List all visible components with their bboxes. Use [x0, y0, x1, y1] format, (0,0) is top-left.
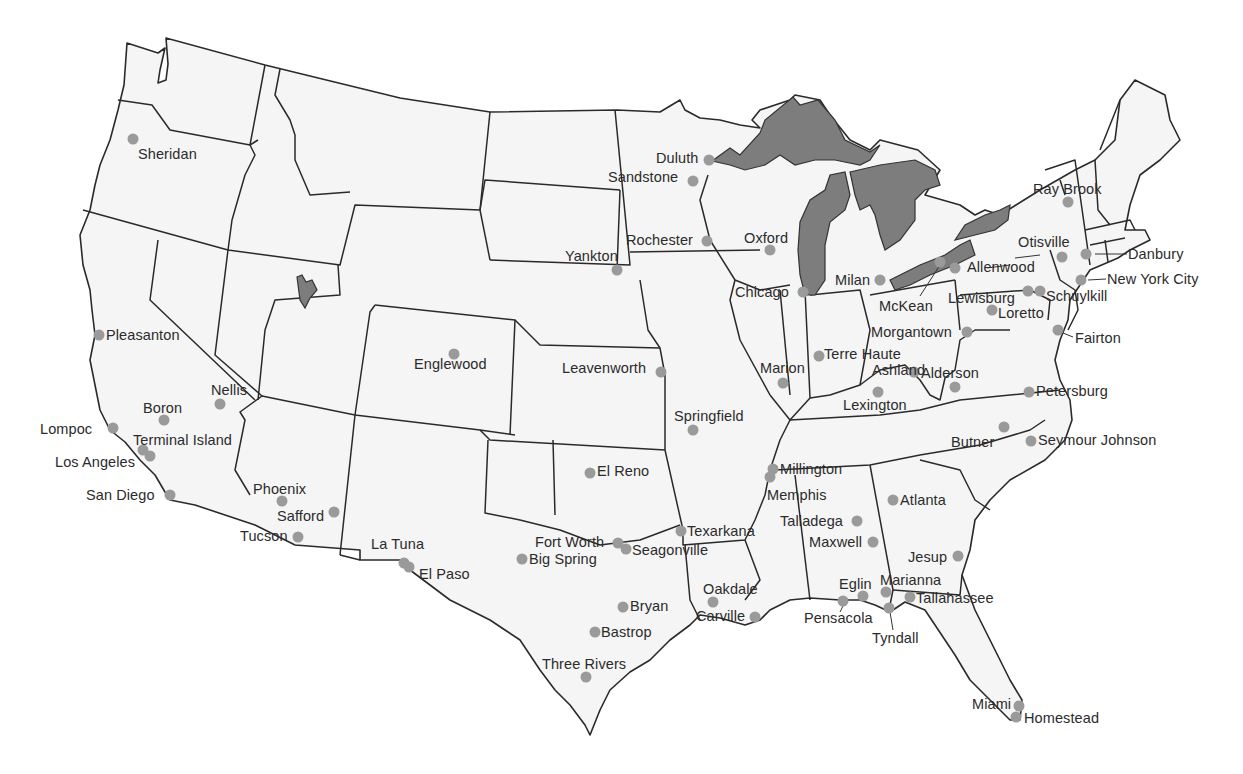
- location-label-tallahassee: Tallahassee: [916, 591, 994, 606]
- location-label-millington: Millington: [780, 462, 842, 477]
- location-label-nellis: Nellis: [211, 383, 247, 398]
- location-dot-marion: [778, 378, 789, 389]
- location-label-oxford: Oxford: [744, 231, 788, 246]
- location-label-allenwood: Allenwood: [967, 260, 1035, 275]
- location-dot-seymour-johnson: [1026, 436, 1037, 447]
- location-dot-atlanta: [888, 495, 899, 506]
- location-label-lompoc: Lompoc: [40, 422, 92, 437]
- location-dot-tallahassee: [905, 592, 916, 603]
- location-dot-boron: [159, 415, 170, 426]
- location-label-danbury: Danbury: [1128, 247, 1184, 262]
- location-label-pensacola: Pensacola: [804, 611, 873, 626]
- location-label-el-reno: El Reno: [597, 464, 649, 479]
- location-label-tucson: Tucson: [240, 529, 288, 544]
- location-label-milan: Milan: [835, 273, 870, 288]
- location-label-tyndall: Tyndall: [872, 631, 919, 646]
- location-label-morgantown: Morgantown: [871, 325, 952, 340]
- location-dot-chicago: [798, 287, 809, 298]
- location-dot-yankton: [612, 265, 623, 276]
- location-label-maxwell: Maxwell: [809, 535, 862, 550]
- location-dot-butner: [999, 422, 1010, 433]
- location-dot-leavenworth: [656, 367, 667, 378]
- location-label-phoenix: Phoenix: [253, 482, 306, 497]
- location-dot-allenwood: [950, 263, 961, 274]
- location-dot-marianna: [881, 587, 892, 598]
- location-dot-schuylkill: [1035, 286, 1046, 297]
- location-dot-oxford: [765, 245, 776, 256]
- location-label-new-york-city: New York City: [1107, 272, 1199, 287]
- location-label-big-spring: Big Spring: [529, 552, 597, 567]
- location-label-los-angeles: Los Angeles: [55, 455, 135, 470]
- location-dot-lewisburg: [1023, 286, 1034, 297]
- location-dot-springfield: [688, 425, 699, 436]
- location-dot-loretto: [987, 305, 998, 316]
- location-dot-lexington: [873, 387, 884, 398]
- location-label-three-rivers: Three Rivers: [542, 657, 626, 672]
- location-label-lewisburg: Lewisburg: [948, 291, 1015, 306]
- location-dot-duluth: [704, 155, 715, 166]
- location-label-yankton: Yankton: [565, 249, 618, 264]
- location-label-petersburg: Petersburg: [1036, 384, 1108, 399]
- location-dot-morgantown: [962, 327, 973, 338]
- location-dot-pleasanton: [94, 330, 105, 341]
- location-label-fort-worth: Fort Worth: [535, 535, 604, 550]
- location-dot-safford: [329, 507, 340, 518]
- location-label-boron: Boron: [143, 401, 182, 416]
- location-label-otisville: Otisville: [1018, 235, 1070, 250]
- location-dot-miami: [1014, 701, 1025, 712]
- location-dot-jesup: [953, 551, 964, 562]
- location-dot-three-rivers: [581, 672, 592, 683]
- location-dot-seagonville: [621, 544, 632, 555]
- location-label-sandstone: Sandstone: [608, 170, 678, 185]
- location-dot-bastrop: [590, 627, 601, 638]
- location-label-duluth: Duluth: [656, 151, 699, 166]
- location-dot-phoenix: [277, 496, 288, 507]
- location-dot-danbury: [1081, 249, 1092, 260]
- location-label-marianna: Marianna: [880, 573, 941, 588]
- location-label-carville: Carville: [696, 609, 745, 624]
- location-dot-talladega: [852, 516, 863, 527]
- location-dot-pensacola: [838, 596, 849, 607]
- location-label-bryan: Bryan: [630, 599, 668, 614]
- location-label-oakdale: Oakdale: [703, 582, 758, 597]
- location-label-terre-haute: Terre Haute: [824, 347, 901, 362]
- location-dot-new-york-city: [1076, 275, 1087, 286]
- location-label-alderson: Alderson: [921, 366, 979, 381]
- location-label-sheridan: Sheridan: [138, 147, 197, 162]
- location-dot-ray-brook: [1063, 197, 1074, 208]
- location-label-englewood: Englewood: [414, 357, 487, 372]
- location-dot-bryan: [618, 602, 629, 613]
- location-label-seagonville: Seagonville: [632, 543, 708, 558]
- location-label-butner: Butner: [951, 435, 994, 450]
- location-dot-san-diego: [165, 490, 176, 501]
- location-label-eglin: Eglin: [839, 577, 872, 592]
- location-dot-petersburg: [1024, 387, 1035, 398]
- location-dot-otisville: [1057, 252, 1068, 263]
- location-label-mckean: McKean: [879, 299, 933, 314]
- location-dot-el-paso: [404, 562, 415, 573]
- location-dot-big-spring: [517, 554, 528, 565]
- location-label-springfield: Springfield: [674, 409, 744, 424]
- location-label-ray-brook: Ray Brook: [1033, 182, 1102, 197]
- location-dot-el-reno: [585, 468, 596, 479]
- location-dot-alderson: [950, 382, 961, 393]
- location-label-leavenworth: Leavenworth: [562, 361, 646, 376]
- location-label-fairton: Fairton: [1075, 331, 1121, 346]
- location-dot-sheridan: [128, 134, 139, 145]
- location-label-miami: Miami: [972, 697, 1011, 712]
- location-label-pleasanton: Pleasanton: [106, 328, 180, 343]
- location-dot-tucson: [293, 532, 304, 543]
- location-dot-tyndall: [884, 603, 895, 614]
- location-dot-memphis: [765, 472, 776, 483]
- location-dot-lompoc: [108, 423, 119, 434]
- location-label-bastrop: Bastrop: [601, 625, 652, 640]
- location-dot-fairton: [1053, 325, 1064, 336]
- location-dot-nellis: [215, 399, 226, 410]
- location-label-safford: Safford: [277, 509, 324, 524]
- location-label-terminal-island: Terminal Island: [133, 433, 232, 448]
- location-dot-oakdale: [708, 597, 719, 608]
- location-dot-eglin: [858, 591, 869, 602]
- location-label-seymour-johnson: Seymour Johnson: [1038, 433, 1156, 448]
- location-label-loretto: Loretto: [998, 306, 1044, 321]
- location-label-homestead: Homestead: [1024, 711, 1099, 726]
